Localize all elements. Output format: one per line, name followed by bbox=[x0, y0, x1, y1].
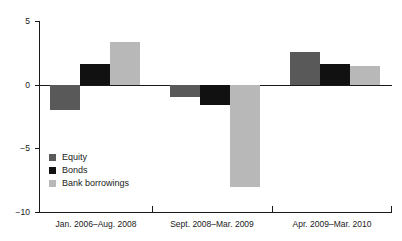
x-tick-mark-end bbox=[391, 206, 392, 212]
bar-equity-period-3 bbox=[290, 52, 320, 85]
y-tick-label-5: 5 bbox=[0, 17, 30, 25]
bar-chart: 5 0 −5 −10 Jan. 2006–Aug. 2008 Sept. 200… bbox=[0, 0, 402, 241]
bar-equity-period-1 bbox=[50, 85, 80, 110]
y-tick-mark-neg5 bbox=[35, 148, 39, 149]
y-tick-label-neg5: −5 bbox=[0, 144, 30, 152]
y-tick-mark-5 bbox=[35, 21, 39, 22]
y-tick-label-neg10: −10 bbox=[0, 208, 30, 216]
legend-label-bonds: Bonds bbox=[62, 166, 88, 175]
chart-legend: Equity Bonds Bank borrowings bbox=[49, 151, 129, 190]
legend-item-equity: Equity bbox=[49, 151, 129, 164]
bar-equity-period-2 bbox=[170, 85, 200, 97]
x-tick-mark-start bbox=[39, 206, 40, 212]
x-tick-mark-1 bbox=[152, 206, 153, 212]
x-tick-mark-2 bbox=[272, 206, 273, 212]
plot-area: 5 0 −5 −10 Jan. 2006–Aug. 2008 Sept. 200… bbox=[0, 0, 402, 241]
legend-label-bank-borrowings: Bank borrowings bbox=[62, 179, 129, 188]
bar-bonds-period-2 bbox=[200, 85, 230, 105]
x-axis-line bbox=[39, 212, 392, 213]
legend-swatch-equity-icon bbox=[49, 154, 56, 161]
x-tick-label-period-3: Apr. 2009–Mar. 2010 bbox=[273, 219, 391, 229]
legend-swatch-bonds-icon bbox=[49, 167, 56, 174]
x-tick-label-period-2: Sept. 2008–Mar. 2009 bbox=[152, 219, 272, 229]
y-axis-line bbox=[39, 21, 40, 212]
legend-swatch-bank-borrowings-icon bbox=[49, 180, 56, 187]
bar-bank-borrowings-period-1 bbox=[110, 42, 140, 85]
legend-item-bonds: Bonds bbox=[49, 164, 129, 177]
bar-bank-borrowings-period-2 bbox=[230, 85, 260, 187]
bar-bonds-period-3 bbox=[320, 64, 350, 85]
x-tick-label-period-1: Jan. 2006–Aug. 2008 bbox=[36, 219, 156, 229]
legend-item-bank-borrowings: Bank borrowings bbox=[49, 177, 129, 190]
bar-bonds-period-1 bbox=[80, 64, 110, 85]
bar-bank-borrowings-period-3 bbox=[350, 66, 380, 85]
y-tick-label-0: 0 bbox=[0, 81, 30, 89]
legend-label-equity: Equity bbox=[62, 153, 87, 162]
